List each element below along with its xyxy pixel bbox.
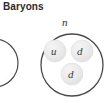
- partial-baryon-outline: [0, 39, 18, 87]
- quark-label-d-upper-right: d: [77, 45, 83, 57]
- quark-label-d-bottom: d: [68, 68, 74, 80]
- partial-baryon-left: [0, 39, 18, 87]
- baryons-figure: Baryons n u d: [0, 0, 108, 103]
- neutron-label: n: [62, 16, 68, 28]
- neutron-particle: [41, 34, 103, 96]
- quark-label-u: u: [51, 45, 57, 57]
